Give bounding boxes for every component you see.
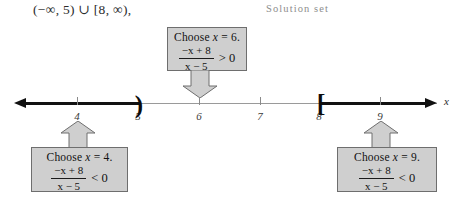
callout-right-heading: Choose x = 9. xyxy=(338,148,436,163)
callout-left-pointer-up-icon xyxy=(61,121,95,149)
callout-right: Choose x = 9. −x + 8 x − 5 < 0 xyxy=(337,147,437,192)
fraction-bar-icon xyxy=(51,178,86,179)
callout-left-denominator: x − 5 xyxy=(54,180,83,193)
fraction-bar-icon xyxy=(359,178,394,179)
callout-left: Choose x = 4. −x + 8 x − 5 < 0 xyxy=(31,147,128,192)
tick-mark-9 xyxy=(380,97,381,105)
callout-right-denominator: x − 5 xyxy=(362,180,391,193)
callout-center-heading: Choose x = 6. xyxy=(168,28,246,43)
solution-set-caption: Solution set xyxy=(266,3,329,14)
tick-mark-6 xyxy=(199,97,200,105)
shaded-segment-left xyxy=(22,102,140,105)
number-line-figure: (−∞, 5) ∪ [8, ∞), Solution set Choose x … xyxy=(0,0,461,205)
callout-center-pointer-down-icon xyxy=(183,70,217,98)
fraction-bar-icon xyxy=(179,58,214,59)
callout-left-fraction: −x + 8 x − 5 xyxy=(51,164,86,192)
callout-center-relation: > 0 xyxy=(219,51,235,66)
callout-right-relation: < 0 xyxy=(399,171,415,186)
tick-mark-7 xyxy=(260,97,261,105)
callout-right-inequality: −x + 8 x − 5 < 0 xyxy=(338,164,436,192)
tick-mark-4 xyxy=(77,97,78,105)
callout-center-inequality: −x + 8 x − 5 > 0 xyxy=(168,44,246,72)
interval-notation: (−∞, 5) ∪ [8, ∞), xyxy=(33,1,131,18)
tick-label-7: 7 xyxy=(257,110,263,122)
callout-left-relation: < 0 xyxy=(91,171,107,186)
callout-center-numerator: −x + 8 xyxy=(179,44,214,57)
callout-left-numerator: −x + 8 xyxy=(51,164,86,177)
callout-right-numerator: −x + 8 xyxy=(359,164,394,177)
callout-right-fraction: −x + 8 x − 5 xyxy=(359,164,394,192)
axis-variable-label: x xyxy=(444,95,449,107)
callout-right-pointer-up-icon xyxy=(364,121,398,149)
callout-center: Choose x = 6. −x + 8 x − 5 > 0 xyxy=(167,27,247,71)
endpoint-open-paren-at-5: ) xyxy=(135,92,143,117)
callout-center-fraction: −x + 8 x − 5 xyxy=(179,44,214,72)
shaded-segment-right xyxy=(320,102,432,105)
callout-left-inequality: −x + 8 x − 5 < 0 xyxy=(32,164,127,192)
endpoint-closed-bracket-at-8: [ xyxy=(317,91,326,117)
tick-label-6: 6 xyxy=(196,110,202,122)
callout-left-heading: Choose x = 4. xyxy=(32,148,127,163)
